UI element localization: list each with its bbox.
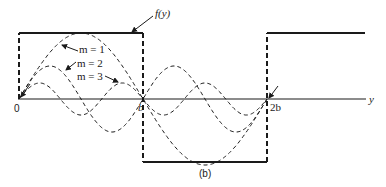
origin-arrow [21,84,30,97]
square-wave-f-y [19,33,365,162]
f-y-label: f(y) [155,7,171,20]
two-b-tick-label: 2b [270,101,282,113]
b-tick-label: b [138,101,144,113]
figure-caption: (b) [199,168,211,179]
origin-tick-label: 0 [14,103,20,114]
m3-pointer [105,76,118,82]
m1-label: m = 1 [79,43,105,55]
m2-label: m = 2 [77,57,103,69]
m3-label: m = 3 [77,70,103,82]
two-b-arrow [269,86,278,98]
f-y-pointer [132,16,153,32]
square-wave-diagram: f(y) m = 1 m = 2 m = 3 0 b 2b y (b) [0,0,386,187]
y-axis-label: y [368,93,374,105]
m2-pointer [66,62,76,70]
m1-pointer [62,45,78,51]
